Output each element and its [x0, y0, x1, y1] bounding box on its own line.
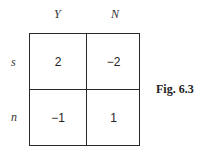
- figure-caption: Fig. 6.3: [156, 83, 194, 96]
- cell-n-y: −1: [30, 90, 86, 145]
- cell-n-n: 1: [87, 90, 140, 145]
- column-label-n: N: [111, 8, 119, 20]
- payoff-grid: 2 −2 −1 1: [29, 33, 140, 146]
- row-label-s: s: [11, 56, 16, 68]
- row-label-n: n: [11, 111, 17, 123]
- column-label-y: Y: [54, 8, 61, 20]
- cell-s-y: 2: [30, 34, 86, 89]
- cell-s-n: −2: [87, 34, 140, 89]
